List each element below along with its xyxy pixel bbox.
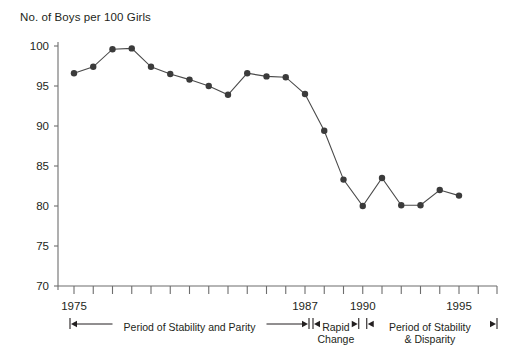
annotation-label-rapid: Rapid (322, 321, 350, 333)
data-point-1979 (148, 64, 154, 70)
annotation-period-rapid-change: RapidChange (313, 318, 359, 345)
x-tick-label-1990: 1990 (350, 300, 376, 312)
data-point-1985 (263, 73, 269, 79)
data-point-1981 (186, 76, 192, 82)
y-tick-label-80: 80 (36, 200, 49, 212)
data-point-1983 (225, 92, 231, 98)
data-point-1977 (109, 46, 115, 52)
y-axis: 100959085807570 (30, 40, 58, 292)
y-tick-label-95: 95 (36, 80, 49, 92)
x-tick-label-1995: 1995 (446, 300, 472, 312)
data-point-1994 (437, 187, 443, 193)
annotation-label-disparity: & Disparity (404, 333, 456, 345)
data-point-1993 (417, 202, 423, 208)
data-point-1987 (302, 91, 308, 97)
x-tick-label-1987: 1987 (292, 300, 318, 312)
data-point-1978 (129, 45, 135, 51)
y-tick-label-85: 85 (36, 160, 49, 172)
data-series-boys-per-100-girls (71, 45, 462, 209)
y-tick-label-100: 100 (30, 40, 49, 52)
y-tick-label-75: 75 (36, 240, 49, 252)
annotation-label-change: Change (317, 333, 354, 345)
x-axis: 1975198719901995 (58, 286, 497, 312)
data-point-1988 (321, 128, 327, 134)
data-point-1992 (398, 202, 404, 208)
y-tick-label-70: 70 (36, 280, 49, 292)
data-point-1995 (456, 192, 462, 198)
x-tick-label-1975: 1975 (61, 300, 87, 312)
annotation-period-stability-disparity: Period of Stability& Disparity (367, 318, 497, 345)
y-tick-label-90: 90 (36, 120, 49, 132)
period-annotations: Period of Stability and ParityRapidChang… (70, 318, 497, 345)
annotation-period-stability-parity: Period of Stability and Parity (70, 318, 309, 333)
annotation-label-period-stability: Period of Stability (389, 321, 471, 333)
data-point-1986 (283, 74, 289, 80)
line-chart-plot: 100959085807570 1975198719901995 Period … (0, 0, 520, 355)
data-point-1980 (167, 71, 173, 77)
chart-figure: No. of Boys per 100 Girls 10095908580757… (0, 0, 520, 355)
data-point-1984 (244, 70, 250, 76)
data-point-1991 (379, 175, 385, 181)
data-point-1975 (71, 70, 77, 76)
annotation-label-period-stability-parity: Period of Stability and Parity (124, 321, 257, 333)
data-point-1976 (90, 64, 96, 70)
data-point-1990 (360, 203, 366, 209)
data-point-1989 (340, 176, 346, 182)
series-line (74, 48, 459, 206)
data-point-1982 (206, 83, 212, 89)
